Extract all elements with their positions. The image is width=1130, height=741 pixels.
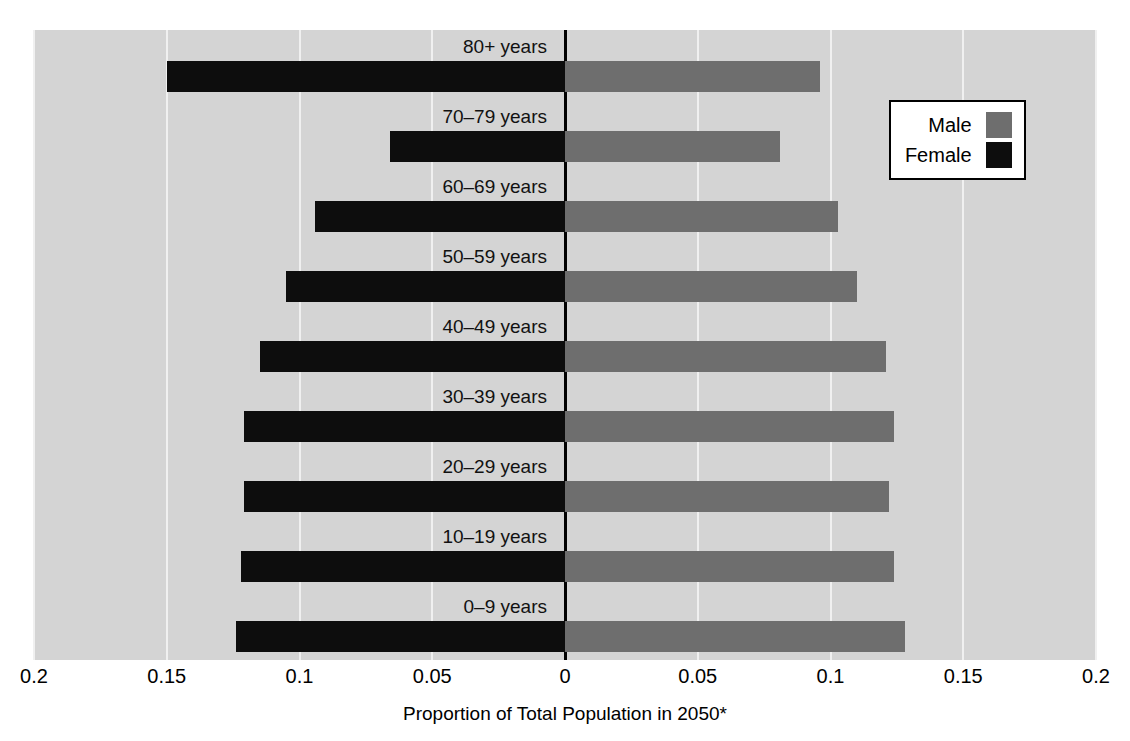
bar-female [286,271,565,302]
legend-swatch-female-icon [986,142,1012,168]
chart-row: 40–49 years [34,310,1096,380]
category-label: 40–49 years [442,314,555,340]
chart-row: 0–9 years [34,590,1096,660]
category-label: 30–39 years [442,384,555,410]
chart-row: 60–69 years [34,170,1096,240]
bar-female [244,481,565,512]
category-label: 10–19 years [442,524,555,550]
category-label: 0–9 years [464,594,555,620]
bar-male [565,481,889,512]
bar-female [390,131,565,162]
legend-label-male: Male [928,114,971,137]
bar-male [565,201,838,232]
chart-legend: Male Female [889,100,1026,180]
chart-row: 50–59 years [34,240,1096,310]
bar-male [565,411,894,442]
x-axis-title: Proportion of Total Population in 2050* [0,703,1130,725]
x-tick-label: 0.15 [147,665,186,688]
category-label: 60–69 years [442,174,555,200]
x-tick-label: 0.15 [944,665,983,688]
x-tick-label: 0.05 [413,665,452,688]
population-pyramid-chart: 80+ years70–79 years60–69 years50–59 yea… [0,0,1130,741]
x-tick-label: 0.2 [20,665,48,688]
x-tick-label: 0.05 [678,665,717,688]
bar-male [565,621,905,652]
legend-item-female: Female [905,140,1012,170]
chart-row: 30–39 years [34,380,1096,450]
bar-male [565,271,857,302]
x-tick-label: 0.1 [286,665,314,688]
bar-male [565,131,780,162]
x-tick-label: 0 [559,665,570,688]
legend-swatch-male-icon [986,112,1012,138]
bar-male [565,551,894,582]
bar-female [167,61,565,92]
chart-row: 20–29 years [34,450,1096,520]
bar-female [260,341,565,372]
category-label: 70–79 years [442,104,555,130]
bar-female [236,621,565,652]
x-axis-tick-labels: 0.20.150.10.0500.050.10.150.2 [34,665,1096,695]
bar-female [241,551,565,582]
x-tick-label: 0.1 [817,665,845,688]
legend-label-female: Female [905,144,972,167]
bar-male [565,61,820,92]
bar-female [244,411,565,442]
category-label: 50–59 years [442,244,555,270]
chart-row: 10–19 years [34,520,1096,590]
legend-item-male: Male [905,110,1012,140]
bar-female [315,201,565,232]
chart-row: 80+ years [34,30,1096,100]
bar-male [565,341,886,372]
category-label: 20–29 years [442,454,555,480]
category-label: 80+ years [463,34,555,60]
x-tick-label: 0.2 [1082,665,1110,688]
